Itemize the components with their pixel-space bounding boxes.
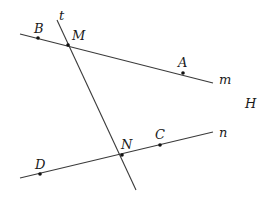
label-H: H <box>244 96 257 111</box>
label-B: B <box>33 21 44 36</box>
label-n: n <box>219 125 227 140</box>
label-C: C <box>155 127 165 142</box>
label-m: m <box>219 72 231 87</box>
point-B <box>36 36 40 40</box>
diagram-canvas: t B M A m H n C N D <box>0 0 267 198</box>
label-t: t <box>59 8 65 23</box>
label-A: A <box>177 55 187 70</box>
line-n <box>20 132 213 178</box>
point-M <box>66 43 70 47</box>
label-D: D <box>34 157 46 172</box>
label-M: M <box>71 28 86 43</box>
point-D <box>38 172 42 176</box>
point-C <box>158 143 162 147</box>
geometry-diagram: t B M A m H n C N D <box>0 0 267 198</box>
point-A <box>181 71 185 75</box>
point-N <box>120 153 124 157</box>
label-N: N <box>120 137 133 152</box>
